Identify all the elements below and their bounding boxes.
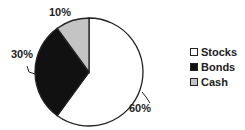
- legend-item-stocks: Stocks: [190, 44, 237, 59]
- legend-label-bonds: Bonds: [201, 61, 235, 73]
- leader-line-bonds: [27, 66, 35, 74]
- pie-chart: 60%30%10%: [0, 0, 160, 130]
- legend-swatch-cash: [190, 78, 198, 86]
- legend-label-cash: Cash: [201, 76, 228, 88]
- legend-swatch-bonds: [190, 63, 198, 71]
- data-label-bonds: 30%: [11, 48, 33, 60]
- legend-label-stocks: Stocks: [201, 46, 237, 58]
- data-label-stocks: 60%: [129, 102, 151, 114]
- legend-item-bonds: Bonds: [190, 59, 237, 74]
- legend: Stocks Bonds Cash: [190, 44, 237, 89]
- legend-item-cash: Cash: [190, 74, 237, 89]
- legend-swatch-stocks: [190, 48, 198, 56]
- data-label-cash: 10%: [49, 6, 71, 18]
